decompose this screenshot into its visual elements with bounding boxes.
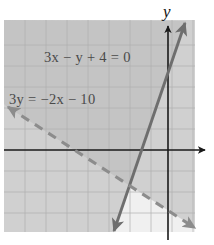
graph-canvas: y 3x − y + 4 = 0 3y = −2x − 10 <box>0 0 214 245</box>
inequality-graph-figure: y 3x − y + 4 = 0 3y = −2x − 10 <box>0 0 214 245</box>
equation-label-3y-equals-minus-2x-minus-10: 3y = −2x − 10 <box>9 91 95 107</box>
equation-label-3x-minus-y-plus-4: 3x − y + 4 = 0 <box>44 49 131 65</box>
y-axis-label: y <box>161 2 171 21</box>
